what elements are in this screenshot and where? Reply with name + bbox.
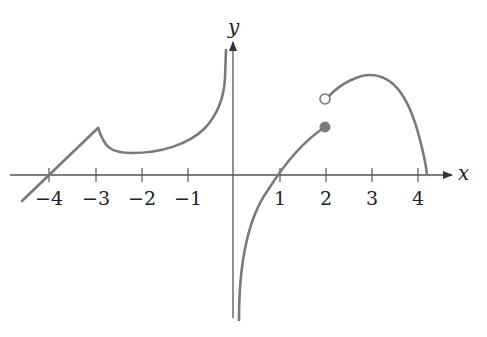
tick-label: 3 — [366, 187, 378, 209]
left-curve — [98, 50, 226, 153]
open-endpoint-dot — [320, 94, 330, 104]
tick-label: 1 — [274, 187, 286, 209]
tick-label: −3 — [82, 187, 110, 209]
tick-label: 4 — [412, 187, 424, 209]
right-curve — [329, 75, 427, 175]
y-axis-label: y — [227, 15, 240, 39]
closed-endpoint-dot — [320, 122, 330, 132]
x-tick-labels: −4 −3 −2 −1 1 2 3 4 — [35, 187, 424, 209]
tick-label: −1 — [174, 187, 202, 209]
middle-curve — [239, 127, 325, 320]
function-graph: −4 −3 −2 −1 1 2 3 4 x y — [0, 0, 487, 337]
tick-label: −2 — [128, 187, 156, 209]
tick-label: 2 — [320, 187, 332, 209]
tick-label: −4 — [35, 187, 63, 209]
x-axis-label: x — [458, 161, 469, 185]
